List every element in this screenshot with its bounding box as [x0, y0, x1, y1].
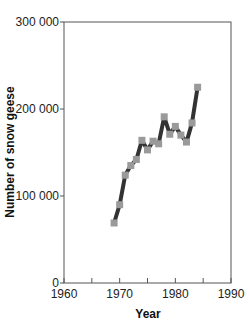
x-tick-label: 1980	[162, 287, 189, 301]
line-chart: 19601970198019900100 000200 000300 000 Y…	[0, 0, 250, 325]
data-point-marker	[133, 156, 140, 163]
data-point-marker	[183, 139, 190, 146]
y-tick-label: 100 000	[16, 189, 60, 203]
data-point-marker	[111, 219, 118, 226]
data-point-marker	[161, 113, 168, 120]
data-point-marker	[116, 201, 123, 208]
data-point-marker	[155, 140, 162, 147]
data-point-marker	[138, 137, 145, 144]
y-tick-label: 0	[52, 276, 59, 290]
data-point-marker	[166, 131, 173, 138]
x-tick-label: 1970	[106, 287, 133, 301]
plot-area: 19601970198019900100 000200 000300 000	[16, 15, 245, 301]
data-point-marker	[144, 146, 151, 153]
data-point-marker	[122, 172, 129, 179]
y-tick-label: 200 000	[16, 102, 60, 116]
data-point-marker	[127, 162, 134, 169]
data-point-marker	[194, 84, 201, 91]
series-line	[114, 87, 198, 223]
x-axis-title: Year	[135, 307, 161, 321]
data-point-marker	[172, 123, 179, 130]
data-point-marker	[177, 132, 184, 139]
data-point-marker	[189, 119, 196, 126]
y-tick-label: 300 000	[16, 15, 60, 29]
x-tick-label: 1990	[218, 287, 245, 301]
data-series	[111, 84, 202, 227]
y-axis-title: Number of snow geese	[3, 86, 17, 218]
